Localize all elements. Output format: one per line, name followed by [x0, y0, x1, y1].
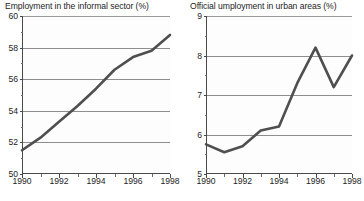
x-tick-label-left-1996: 1996	[123, 176, 142, 186]
y-tick-label-right-6: 6	[197, 130, 202, 140]
x-tick-label-left-1992: 1992	[49, 176, 68, 186]
x-tick-label-left-1990: 1990	[12, 176, 31, 186]
y-tick-label-left-54: 54	[8, 106, 18, 116]
x-tick-label-left-1994: 1994	[86, 176, 105, 186]
y-tick-label-right-9: 9	[197, 11, 202, 21]
y-tick-label-left-56: 56	[8, 74, 18, 84]
y-tick-label-left-52: 52	[8, 137, 18, 147]
plot-wrap-left	[22, 16, 170, 174]
x-tick-label-right-1990: 1990	[196, 176, 215, 186]
series-line-right	[206, 16, 352, 174]
chart-employment-informal-sector: Employment in the informal sector (%) 50…	[0, 0, 182, 201]
chart-official-unemployment-urban: Official umployment in urban areas (%) 5…	[182, 0, 364, 201]
y-axis-labels-right: 56789	[182, 16, 206, 174]
plot-wrap-right	[206, 16, 352, 174]
x-axis-labels-right: 19901992199419961998	[206, 176, 352, 190]
series-path-right	[206, 48, 352, 153]
y-tick-label-left-58: 58	[8, 43, 18, 53]
x-tick-label-right-1996: 1996	[306, 176, 325, 186]
x-tick-label-left-1998: 1998	[160, 176, 179, 186]
y-axis-labels-left: 505254565860	[0, 16, 22, 174]
y-tick-label-left-60: 60	[8, 11, 18, 21]
x-axis-labels-left: 19901992199419961998	[22, 176, 170, 190]
x-tick-label-right-1994: 1994	[269, 176, 288, 186]
y-tick-label-right-7: 7	[197, 90, 202, 100]
series-line-left	[22, 16, 170, 174]
chart-title-left: Employment in the informal sector (%)	[0, 1, 182, 11]
series-path-left	[22, 35, 170, 150]
x-tick-label-right-1992: 1992	[233, 176, 252, 186]
x-tick-label-right-1998: 1998	[342, 176, 361, 186]
y-tick-label-right-8: 8	[197, 51, 202, 61]
chart-title-right: Official umployment in urban areas (%)	[182, 1, 364, 11]
